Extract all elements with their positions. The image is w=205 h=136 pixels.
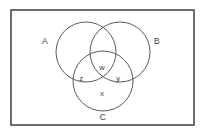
set-label-b: B — [154, 36, 160, 46]
region-label-z: z — [79, 74, 83, 83]
venn-diagram-figure: A B C w z y x — [0, 0, 205, 136]
region-label-y: y — [116, 74, 120, 83]
region-label-w: w — [98, 63, 105, 72]
venn-diagram-canvas: A B C w z y x — [0, 0, 205, 136]
set-circle-a — [56, 22, 116, 82]
set-label-c: C — [100, 112, 106, 122]
set-label-a: A — [42, 36, 48, 46]
region-label-x: x — [100, 89, 104, 98]
set-circle-b — [90, 22, 150, 82]
